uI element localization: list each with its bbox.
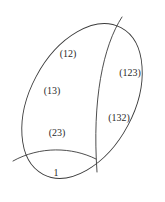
region-23-label: (23) [49, 127, 66, 138]
region-132-label: (132) [108, 112, 130, 123]
outer-ellipse-boundary [0, 3, 165, 198]
region-12-label: (12) [60, 48, 77, 59]
region-123-label: (123) [119, 67, 141, 78]
main-vertical-arc [96, 17, 122, 172]
diagram-svg [0, 0, 165, 202]
diagram-canvas: (12) (13) (23) 1 (123) (132) [0, 0, 165, 202]
region-identity-label: 1 [54, 167, 59, 178]
region-13-label: (13) [44, 85, 61, 96]
lower-horizontal-arc [13, 150, 96, 161]
